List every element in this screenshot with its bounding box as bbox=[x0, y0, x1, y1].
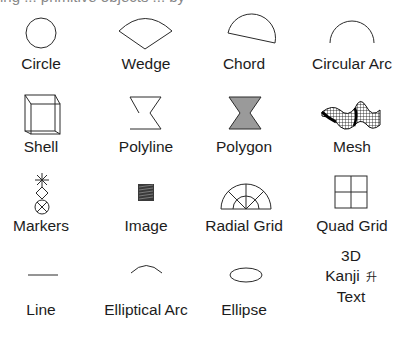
label-chord: Chord bbox=[193, 55, 295, 73]
primitive-ellipse: Ellipse bbox=[195, 240, 297, 340]
label-line: Line bbox=[0, 301, 92, 319]
quad-grid-icon bbox=[300, 160, 402, 220]
primitive-circle: Circle bbox=[0, 0, 102, 80]
label-radial-grid: Radial Grid bbox=[193, 217, 295, 235]
primitive-3d-kanji-text: 3D Kanji升 Text bbox=[300, 247, 402, 306]
label-wedge: Wedge bbox=[95, 55, 197, 73]
text-kanji-line: Kanji升 bbox=[300, 267, 402, 286]
primitive-elliptical-arc: Elliptical Arc bbox=[95, 240, 197, 340]
radial-grid-icon bbox=[195, 160, 297, 220]
primitive-image: Image bbox=[95, 160, 197, 240]
polygon-icon bbox=[195, 80, 297, 140]
polyline-icon bbox=[95, 80, 197, 140]
primitive-chord: Chord bbox=[195, 0, 297, 80]
primitive-polyline: Polyline bbox=[95, 80, 197, 160]
text-3d-line: 3D bbox=[300, 247, 402, 265]
primitive-markers: Markers bbox=[0, 160, 102, 240]
chord-icon bbox=[195, 0, 297, 60]
label-elliptical-arc: Elliptical Arc bbox=[95, 301, 197, 319]
label-circular-arc: Circular Arc bbox=[301, 55, 403, 73]
primitive-quad-grid: Quad Grid bbox=[300, 160, 402, 240]
label-polygon: Polygon bbox=[193, 138, 295, 156]
label-circle: Circle bbox=[0, 55, 92, 73]
primitive-wedge: Wedge bbox=[95, 0, 197, 80]
image-icon bbox=[95, 160, 197, 220]
circular-arc-icon bbox=[300, 0, 402, 60]
line-icon bbox=[0, 240, 102, 300]
label-markers: Markers bbox=[0, 217, 92, 235]
kanji-glyph: 升 bbox=[366, 271, 377, 283]
primitive-polygon: Polygon bbox=[195, 80, 297, 160]
primitive-radial-grid: Radial Grid bbox=[195, 160, 297, 240]
primitive-line: Line bbox=[0, 240, 102, 340]
primitive-shell: Shell bbox=[0, 80, 102, 160]
mesh-surface-icon bbox=[300, 80, 402, 140]
label-quad-grid: Quad Grid bbox=[301, 217, 403, 235]
shell-cube-icon bbox=[0, 80, 102, 140]
label-shell: Shell bbox=[0, 138, 92, 156]
elliptical-arc-icon bbox=[95, 240, 197, 300]
wedge-icon bbox=[95, 0, 197, 60]
primitive-circular-arc: Circular Arc bbox=[300, 0, 402, 80]
text-kanji-word: Kanji bbox=[325, 267, 359, 284]
label-polyline: Polyline bbox=[95, 138, 197, 156]
text-text-line: Text bbox=[300, 288, 402, 306]
primitive-mesh: Mesh bbox=[300, 80, 402, 160]
ellipse-icon bbox=[195, 240, 297, 300]
label-ellipse: Ellipse bbox=[193, 301, 295, 319]
label-mesh: Mesh bbox=[301, 138, 403, 156]
label-image: Image bbox=[95, 217, 197, 235]
circle-icon bbox=[0, 0, 102, 60]
markers-icon bbox=[0, 160, 102, 220]
